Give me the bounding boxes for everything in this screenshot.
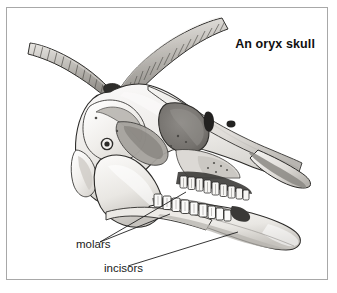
callout-label-molars: molars	[76, 238, 111, 250]
temporal-foramen	[104, 141, 109, 146]
infraorbital-foramen	[227, 121, 236, 128]
upper-molar-row	[176, 171, 252, 200]
figure-title: An oryx skull	[235, 37, 315, 51]
leader-incisors	[128, 232, 238, 266]
lacrimal-fossa	[204, 111, 214, 131]
callout-label-incisors: incisors	[104, 262, 143, 274]
figure-root: An oryx skull molars incisors	[0, 0, 337, 293]
